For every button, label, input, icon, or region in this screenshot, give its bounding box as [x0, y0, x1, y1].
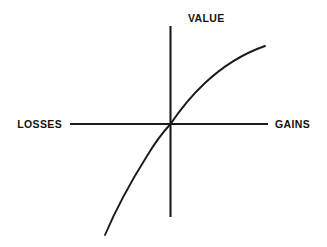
value-function-chart: VALUE LOSSES GAINS	[0, 0, 327, 247]
x-axis-label-losses: LOSSES	[17, 118, 62, 130]
x-axis-label-gains: GAINS	[275, 118, 310, 130]
value-function-figure: VALUE LOSSES GAINS	[0, 0, 327, 247]
y-axis-label-value: VALUE	[188, 12, 225, 24]
